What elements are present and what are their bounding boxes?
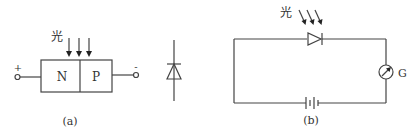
light-arrows-a [66, 38, 92, 57]
photodiode-diagram: 光 N P + - (a) 光 [0, 0, 417, 138]
light-arrows-b [299, 10, 323, 25]
minus-sign: - [134, 61, 137, 72]
minus-terminal [134, 73, 139, 78]
figure-a: 光 N P + - (a) [14, 30, 139, 128]
light-label-b: 光 [280, 6, 292, 20]
light-label-a: 光 [51, 30, 63, 44]
battery [306, 97, 318, 109]
figure-b: 光 G [234, 6, 407, 127]
diode-symbol [167, 40, 181, 101]
galvanometer [379, 65, 393, 79]
p-region-label: P [92, 70, 100, 84]
caption-a: (a) [62, 115, 77, 128]
n-region-label: N [57, 70, 68, 84]
plus-terminal [15, 75, 20, 80]
galvanometer-label: G [398, 67, 407, 80]
plus-sign: + [14, 62, 22, 73]
pn-junction-box [41, 60, 112, 92]
photodiode [308, 33, 322, 45]
caption-b: (b) [303, 114, 319, 127]
